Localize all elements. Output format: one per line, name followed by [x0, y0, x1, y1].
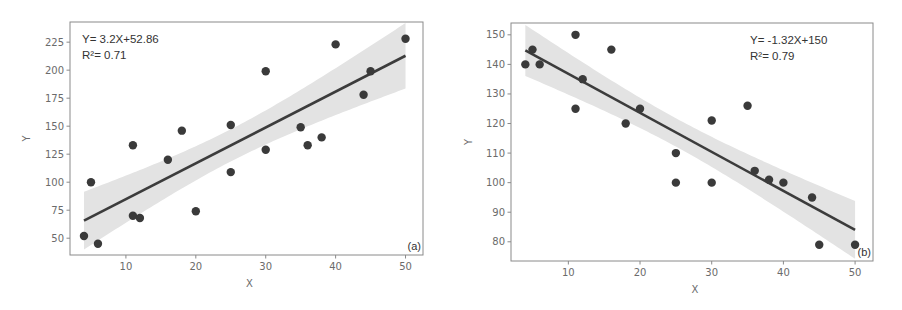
x-tick-label: 50 [399, 261, 412, 272]
data-point [636, 105, 644, 113]
data-point [571, 31, 579, 39]
regression-line-a [84, 56, 406, 221]
y-tick-label: 100 [45, 177, 64, 188]
x-tick-label: 30 [259, 261, 272, 272]
data-point [296, 123, 304, 131]
data-point [192, 207, 200, 215]
chart-b-panel: 10203040508090100110120130140150XYY= -1.… [450, 0, 902, 310]
data-point [672, 149, 680, 157]
data-point [80, 232, 88, 240]
data-point [366, 67, 374, 75]
regression-equation-b: Y= -1.32X+150 [750, 34, 827, 46]
data-point [317, 133, 325, 141]
y-tick-label: 140 [486, 59, 505, 70]
data-point [779, 178, 787, 186]
chart-a-panel: 10203040505075100125150175200225XYY= 3.2… [0, 0, 450, 310]
data-point [743, 102, 751, 110]
data-point [672, 178, 680, 186]
x-axis-label-b: X [692, 284, 699, 295]
regression-equation-a: Y= 3.2X+52.86 [82, 33, 159, 45]
data-point [136, 214, 144, 222]
y-tick-label: 90 [492, 207, 505, 218]
data-point [528, 45, 536, 53]
x-tick-label: 10 [120, 261, 133, 272]
data-point [708, 178, 716, 186]
data-point [359, 91, 367, 99]
data-point [87, 178, 95, 186]
data-point [751, 167, 759, 175]
data-point [571, 105, 579, 113]
y-tick-label: 125 [45, 149, 64, 160]
y-tick-label: 80 [492, 236, 505, 247]
data-point [401, 35, 409, 43]
data-point [303, 141, 311, 149]
panel-label-a: (a) [408, 240, 421, 252]
y-tick-label: 225 [45, 37, 64, 48]
data-point [129, 141, 137, 149]
scatter-chart-b: 10203040508090100110120130140150XYY= -1.… [450, 0, 902, 310]
data-point [808, 193, 816, 201]
y-axis-label-b: Y [463, 138, 474, 146]
regression-line-b [525, 50, 855, 230]
y-tick-label: 130 [486, 88, 505, 99]
data-point [262, 146, 270, 154]
data-point [227, 168, 235, 176]
y-axis-label-a: Y [21, 135, 32, 143]
data-point [535, 60, 543, 68]
y-tick-label: 150 [45, 121, 64, 132]
r-squared-b: R²= 0.79 [750, 50, 794, 62]
y-tick-label: 150 [486, 29, 505, 40]
y-tick-label: 50 [51, 233, 64, 244]
x-tick-label: 40 [329, 261, 342, 272]
data-point [815, 241, 823, 249]
x-tick-label: 40 [777, 267, 790, 278]
data-point [708, 116, 716, 124]
y-tick-label: 175 [45, 93, 64, 104]
scatter-chart-a: 10203040505075100125150175200225XYY= 3.2… [0, 0, 450, 310]
data-point [262, 67, 270, 75]
y-tick-label: 100 [486, 177, 505, 188]
x-tick-label: 20 [634, 267, 647, 278]
y-tick-label: 200 [45, 65, 64, 76]
data-point [164, 156, 172, 164]
data-point [607, 45, 615, 53]
x-tick-label: 50 [849, 267, 862, 278]
data-point [331, 40, 339, 48]
data-point [578, 75, 586, 83]
x-tick-label: 30 [705, 267, 718, 278]
data-point [227, 121, 235, 129]
y-tick-label: 75 [51, 205, 64, 216]
data-point [621, 119, 629, 127]
data-point [521, 60, 529, 68]
y-tick-label: 110 [486, 148, 505, 159]
data-point [765, 175, 773, 183]
y-tick-label: 120 [486, 118, 505, 129]
x-tick-label: 10 [562, 267, 575, 278]
r-squared-a: R²= 0.71 [82, 49, 126, 61]
confidence-band-b [525, 25, 855, 259]
panel-label-b: (b) [858, 246, 871, 258]
x-tick-label: 20 [189, 261, 202, 272]
x-axis-label-a: X [246, 278, 253, 289]
data-point [94, 240, 102, 248]
data-point [178, 126, 186, 134]
